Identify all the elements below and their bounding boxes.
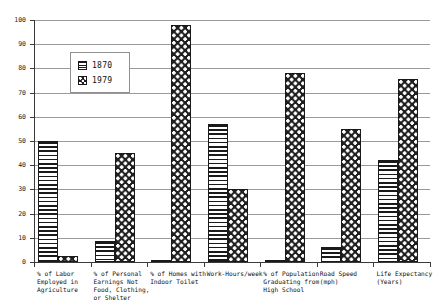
x-axis-category-label: Road Speed (mph) bbox=[320, 270, 383, 286]
x-axis-category-label: % of Labor Employed in Agriculture bbox=[37, 270, 100, 294]
y-axis-tick bbox=[30, 117, 34, 118]
x-axis-line bbox=[34, 262, 431, 263]
y-axis-tick-label: 0 bbox=[0, 258, 26, 266]
legend: 1870 1979 bbox=[70, 52, 130, 93]
bar-1979-2 bbox=[171, 25, 191, 262]
x-axis-tick bbox=[430, 262, 431, 267]
y-axis-tick-label: 30 bbox=[0, 185, 26, 193]
x-axis-tick bbox=[317, 262, 318, 267]
x-axis-category-label: Life Expectancy (Years) bbox=[376, 270, 439, 286]
bar-1979-1 bbox=[115, 153, 135, 262]
y-axis-tick-label: 70 bbox=[0, 89, 26, 97]
y-axis-tick bbox=[30, 141, 34, 142]
bar-1870-3 bbox=[208, 124, 228, 262]
x-axis-tick bbox=[260, 262, 261, 267]
y-axis-tick-label: 20 bbox=[0, 210, 26, 218]
legend-item-1979: 1979 bbox=[78, 73, 129, 88]
x-axis-category-label: % of Homes with Indoor Toilet bbox=[150, 270, 213, 286]
y-axis-line bbox=[34, 20, 35, 263]
legend-swatch-1870-icon bbox=[78, 61, 87, 70]
y-axis-tick bbox=[30, 93, 34, 94]
x-axis-tick bbox=[34, 262, 35, 267]
bar-1979-4 bbox=[285, 73, 305, 262]
x-axis-tick bbox=[147, 262, 148, 267]
bar-1979-3 bbox=[228, 189, 248, 262]
legend-label-1979: 1979 bbox=[92, 76, 112, 85]
y-axis-tick bbox=[30, 68, 34, 69]
legend-label-1870: 1870 bbox=[92, 61, 112, 70]
y-axis-tick-label: 40 bbox=[0, 161, 26, 169]
y-axis-tick bbox=[30, 189, 34, 190]
x-axis-tick bbox=[373, 262, 374, 267]
bar-1870-0 bbox=[38, 141, 58, 262]
bar-1870-5 bbox=[321, 247, 341, 262]
x-axis-category-label: % of Personal Earnings Not Food, Clothin… bbox=[94, 270, 157, 302]
bar-1870-1 bbox=[95, 241, 115, 262]
y-axis-tick-label: 50 bbox=[0, 137, 26, 145]
x-axis-category-label: Work-Hours/week bbox=[207, 270, 270, 278]
bar-1870-6 bbox=[378, 160, 398, 262]
y-axis-tick-label: 10 bbox=[0, 234, 26, 242]
y-axis-tick-label: 80 bbox=[0, 64, 26, 72]
y-axis-tick-label: 90 bbox=[0, 40, 26, 48]
y-axis-tick bbox=[30, 214, 34, 215]
y-axis-tick-label: 100 bbox=[0, 16, 26, 24]
bar-1979-6 bbox=[398, 79, 418, 262]
x-axis-tick bbox=[91, 262, 92, 267]
y-axis-tick-label: 60 bbox=[0, 113, 26, 121]
y-axis-tick bbox=[30, 20, 34, 21]
bar-chart: 0102030405060708090100 % of Labor Employ… bbox=[0, 0, 443, 306]
legend-swatch-1979-icon bbox=[78, 76, 87, 85]
bar-1979-5 bbox=[341, 129, 361, 262]
y-axis-tick bbox=[30, 44, 34, 45]
y-axis-tick bbox=[30, 165, 34, 166]
x-axis-category-label: % of Population Graduating from High Sch… bbox=[263, 270, 326, 294]
x-axis-tick bbox=[204, 262, 205, 267]
y-axis-tick bbox=[30, 238, 34, 239]
legend-item-1870: 1870 bbox=[78, 58, 129, 73]
